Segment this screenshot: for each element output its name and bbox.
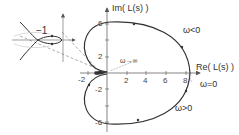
- omega-infinity-label: ω→∞: [120, 57, 137, 64]
- x-tick: 4: [143, 77, 147, 85]
- omega-negative-label: ω<0: [183, 26, 200, 35]
- inset-zoom: [12, 14, 75, 62]
- y-tick: -6: [95, 119, 102, 127]
- y-tick: 2: [98, 53, 102, 61]
- x-axis-label: Re( L(s) ): [196, 63, 234, 72]
- omega-positive-label: ω>0: [175, 104, 192, 113]
- x-tick: 2: [124, 77, 128, 85]
- inset-minus-one-label: −1: [36, 26, 47, 36]
- y-tick: 6: [98, 20, 102, 28]
- x-tick: 8: [183, 77, 187, 85]
- y-axis-label: Im( L(s) ): [112, 4, 149, 13]
- x-tick: -2: [78, 76, 85, 84]
- x-tick: 6: [163, 77, 167, 85]
- y-tick: -2: [95, 86, 102, 94]
- omega-zero-label: ω=0: [200, 80, 217, 89]
